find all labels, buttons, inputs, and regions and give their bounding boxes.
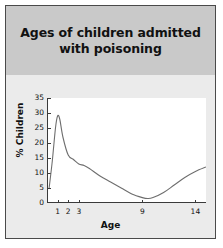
y-tick-label: 5 (39, 184, 44, 192)
y-tick-label: 0 (39, 199, 44, 207)
chart-title-band: Ages of children admitted with poisoning (6, 6, 215, 75)
y-tick-label: 10 (34, 169, 44, 177)
y-axis-tick-labels: 05101520253035 (22, 98, 44, 203)
chart-figure-card: Ages of children admitted with poisoning… (5, 5, 216, 239)
x-axis-title: Age (6, 220, 215, 230)
plot-area (47, 98, 206, 203)
data-series-line (49, 115, 206, 198)
x-tick-label: 2 (66, 208, 71, 216)
chart-plot-body: % Children 05101520253035 123914 Age (6, 75, 215, 239)
x-axis-tick-labels: 123914 (47, 206, 206, 218)
y-tick-label: 30 (34, 109, 44, 117)
x-tick-label: 14 (191, 208, 201, 216)
x-tick-label: 9 (140, 208, 145, 216)
y-tick-label: 15 (34, 154, 44, 162)
x-tick-label: 1 (55, 208, 60, 216)
x-tick-label: 3 (76, 208, 81, 216)
axes-group (47, 98, 206, 203)
line-chart-svg (47, 98, 206, 203)
chart-title: Ages of children admitted with poisoning (14, 25, 207, 56)
y-tick-label: 20 (34, 139, 44, 147)
y-tick-label: 35 (34, 94, 44, 102)
y-tick-label: 25 (34, 124, 44, 132)
